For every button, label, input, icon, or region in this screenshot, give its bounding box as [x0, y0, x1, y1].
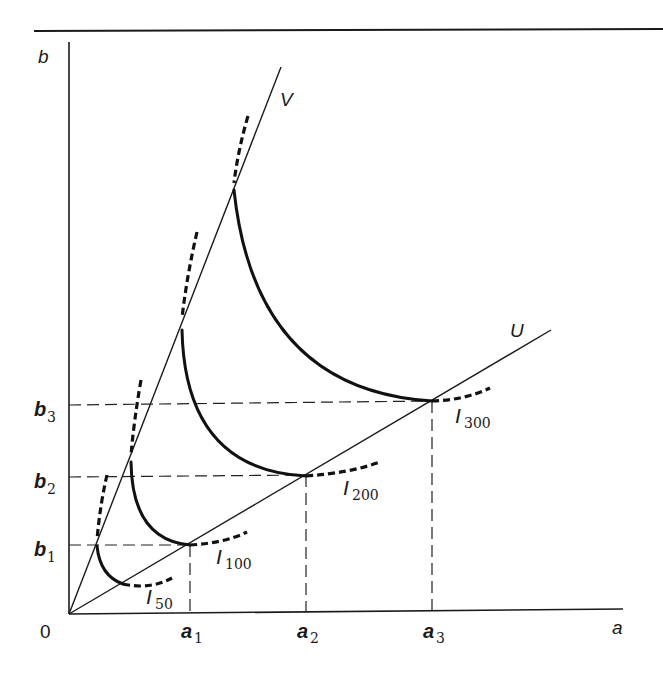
- svg-text:3: 3: [436, 630, 445, 646]
- svg-text:3: 3: [47, 409, 56, 425]
- svg-text:I: I: [146, 585, 152, 608]
- svg-text:a: a: [297, 620, 308, 642]
- svg-text:b: b: [34, 538, 46, 560]
- label-i100: I 100: [216, 545, 252, 572]
- ray-v: [69, 67, 281, 614]
- svg-text:I: I: [216, 545, 222, 568]
- svg-text:b: b: [34, 398, 46, 420]
- ray-u-label: U: [510, 320, 524, 341]
- svg-text:a: a: [181, 620, 192, 642]
- svg-text:1: 1: [194, 630, 203, 646]
- x-tick-a1: a 1: [181, 620, 203, 646]
- svg-text:50: 50: [155, 596, 173, 612]
- svg-text:2: 2: [310, 630, 319, 646]
- label-i50: I 50: [146, 585, 173, 612]
- svg-text:I: I: [455, 404, 461, 427]
- svg-text:I: I: [343, 476, 349, 499]
- isoquant-i200: [182, 232, 380, 476]
- svg-text:b: b: [34, 470, 46, 492]
- svg-text:100: 100: [225, 556, 252, 572]
- y-tick-b2: b 2: [34, 470, 56, 497]
- svg-text:200: 200: [352, 487, 379, 503]
- isoquant-diagram: b a 0 V U b 1 b 2 b 3 a 1 a 2 a 3 I 50 I…: [0, 0, 663, 673]
- svg-text:2: 2: [47, 481, 56, 497]
- x-axis: [69, 609, 623, 614]
- ray-v-label: V: [280, 89, 295, 110]
- label-i200: I 200: [343, 476, 379, 503]
- x-axis-label: a: [612, 617, 623, 638]
- svg-text:1: 1: [47, 549, 56, 565]
- x-tick-a3: a 3: [423, 620, 445, 646]
- label-i300: I 300: [455, 404, 491, 431]
- y-tick-b3: b 3: [34, 398, 56, 425]
- svg-text:a: a: [423, 620, 434, 642]
- y-axis-label: b: [38, 46, 49, 67]
- top-rule: [34, 29, 663, 31]
- svg-text:300: 300: [464, 415, 491, 431]
- origin-label: 0: [40, 621, 51, 642]
- y-tick-b1: b 1: [34, 538, 56, 565]
- isoquant-i100: [131, 380, 247, 545]
- ray-u: [69, 330, 551, 614]
- x-tick-a2: a 2: [297, 620, 319, 646]
- isoquant-i300: [234, 116, 490, 401]
